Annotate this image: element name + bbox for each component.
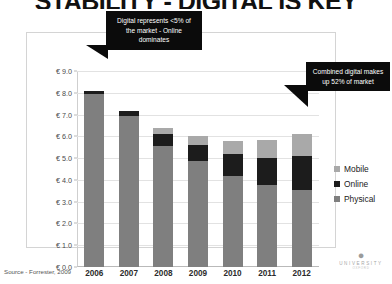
bar-segment-physical: [153, 146, 173, 267]
legend-item: Online: [334, 179, 375, 189]
slide: STABILITY - DIGITAL IS KEY € 9.0€ 8.0€ 7…: [0, 0, 392, 284]
university-logo: ● UNIVERSITY OXFORD: [338, 250, 384, 280]
chart-plot-area: € 9.0€ 8.0€ 7.0€ 6.0€ 5.0€ 4.0€ 3.0€ 2.0…: [77, 71, 319, 267]
logo-crest-icon: ●: [338, 250, 384, 261]
legend-label: Physical: [344, 194, 375, 204]
bar-column: [153, 71, 173, 267]
bar-segment-online: [257, 158, 277, 185]
source-note: Source - Forrester, 2009: [4, 268, 71, 275]
bar-segment-mobile: [223, 141, 243, 154]
bar-segment-physical: [292, 190, 312, 267]
legend-item: Physical: [334, 194, 375, 204]
x-axis-label: 2008: [153, 269, 173, 278]
bar-series-group: [77, 71, 319, 267]
legend-label: Online: [344, 179, 368, 189]
legend-swatch-icon: [334, 166, 340, 172]
callout-digital-share: Digital represents <5% of the market - O…: [106, 11, 202, 50]
callout-combined-digital: Combined digital makes up 52% of market: [306, 62, 390, 91]
callout-left-pointer: [86, 45, 108, 59]
bar-segment-mobile: [188, 136, 208, 145]
x-axis-label: 2012: [292, 269, 312, 278]
legend-swatch-icon: [334, 196, 340, 202]
bar-segment-physical: [84, 94, 104, 267]
callout-left-text: Digital represents <5% of the market - O…: [117, 17, 191, 43]
callout-right-text: Combined digital makes up 52% of market: [313, 68, 383, 85]
callout-right-pointer: [284, 85, 308, 107]
x-axis-label: 2010: [223, 269, 243, 278]
bar-segment-physical: [119, 116, 139, 267]
bar-column: [257, 71, 277, 267]
legend-item: Mobile: [334, 164, 375, 174]
x-axis-label: 2009: [188, 269, 208, 278]
x-axis-label: 2006: [84, 269, 104, 278]
chart-frame: € 9.0€ 8.0€ 7.0€ 6.0€ 5.0€ 4.0€ 3.0€ 2.0…: [26, 32, 336, 248]
bar-segment-physical: [188, 161, 208, 267]
bar-column: [188, 71, 208, 267]
bar-column: [119, 71, 139, 267]
page-title: STABILITY - DIGITAL IS KEY: [0, 0, 392, 9]
x-axis-labels: 2006200720082009201020112012: [77, 269, 319, 278]
bar-segment-mobile: [257, 140, 277, 159]
bar-segment-online: [153, 134, 173, 146]
bar-segment-online: [223, 154, 243, 176]
chart-legend: MobileOnlinePhysical: [334, 164, 375, 204]
bar-column: [223, 71, 243, 267]
bar-segment-online: [292, 156, 312, 190]
x-axis-label: 2011: [257, 269, 277, 278]
legend-swatch-icon: [334, 181, 340, 187]
legend-label: Mobile: [344, 164, 369, 174]
bar-segment-online: [188, 145, 208, 161]
bar-segment-physical: [223, 176, 243, 267]
bar-column: [84, 71, 104, 267]
bar-segment-mobile: [292, 134, 312, 156]
logo-line-2: OXFORD: [338, 266, 384, 270]
bar-segment-physical: [257, 185, 277, 267]
x-axis-label: 2007: [119, 269, 139, 278]
